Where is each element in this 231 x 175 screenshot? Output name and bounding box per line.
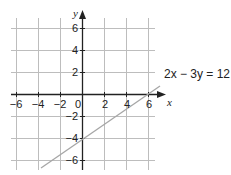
x-tick-label: −6 (10, 98, 23, 110)
x-tick-label: −2 (54, 98, 67, 110)
x-tick-label: −4 (32, 98, 45, 110)
x-tick-label: 4 (124, 98, 130, 110)
y-axis-arrow-icon (79, 10, 86, 19)
y-tick-label: −4 (65, 132, 78, 144)
y-axis-label: y (72, 7, 78, 19)
y-tick-label: 6 (72, 22, 78, 34)
y-tick-label: −2 (65, 110, 78, 122)
y-tick-label: −6 (65, 154, 78, 166)
x-axis-label: x (166, 96, 172, 108)
y-tick-label: 2 (72, 66, 78, 78)
origin-label: 0 (75, 98, 81, 110)
equation-label: 2x − 3y = 12 (164, 67, 230, 81)
y-tick-label: 4 (72, 44, 78, 56)
x-axis-arrow-icon (157, 91, 166, 98)
coordinate-plane: −6 −4 −2 0 2 4 6 6 4 2 −2 −4 −6 x y 2x −… (0, 0, 231, 175)
x-tick-label: 2 (102, 98, 108, 110)
x-tick-label: 6 (146, 98, 152, 110)
axes (11, 16, 160, 170)
